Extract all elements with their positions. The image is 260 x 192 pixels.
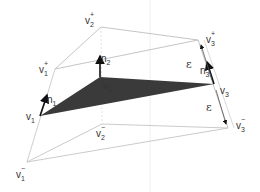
offset-triangle-diagram: v1+ v2+ v3+ v1 v2 v3 v1− v2− v3− n1 n2 n… [0,0,260,192]
label-v1-plus: v1+ [39,60,48,77]
lower-triangle-edge [27,128,228,162]
label-epsilon-upper: ε [186,58,192,71]
label-epsilon-lower: ε [206,101,212,114]
label-n2: n2 [101,53,111,66]
upper-triangle-edges [55,27,198,69]
label-v1: v1 [26,111,35,124]
label-v1-minus: v1− [16,165,25,182]
lower-triangle-edges [27,124,228,162]
label-v3-plus: v3+ [206,30,215,47]
label-n1: n1 [47,94,57,107]
upper-triangle-edge [55,40,198,69]
label-v3: v3 [220,85,229,98]
central-triangle [40,77,214,116]
label-v3-minus: v3− [236,116,245,133]
side-edge-2 [101,27,102,124]
label-v2-plus: v2+ [85,11,94,28]
